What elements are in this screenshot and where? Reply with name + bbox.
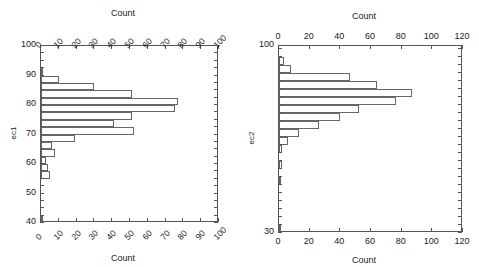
y-axis-tick: [214, 82, 218, 83]
y-axis-tick-label: 60: [6, 158, 36, 167]
panel-ec2: Count Count ec2 002020404060608080100100…: [240, 0, 479, 267]
x-axis-tick-label: 40: [105, 229, 118, 242]
y-axis-tick: [40, 156, 44, 157]
x-axis-tick: [93, 218, 94, 222]
y-axis-tick-label: 80: [6, 99, 36, 108]
x-axis-tick: [370, 45, 371, 49]
y-axis-tick: [40, 126, 44, 127]
y-axis-tick: [278, 104, 282, 105]
x-axis-tick-label: 10: [52, 229, 65, 242]
y-axis-tick: [278, 192, 282, 193]
y-axis-tick: [40, 111, 44, 112]
y-axis-tick: [278, 200, 282, 201]
y-axis-tick: [214, 163, 218, 164]
x-axis-tick-label: 70: [159, 229, 172, 242]
y-axis-tick: [214, 207, 218, 208]
y-axis-tick: [40, 207, 44, 208]
left-top-axis-title: Count: [111, 9, 135, 18]
y-axis-tick: [278, 160, 282, 161]
x-axis-tick-label: 50: [123, 229, 136, 242]
y-axis-tick: [214, 193, 218, 194]
y-axis-tick: [40, 82, 44, 83]
y-axis-tick-label: 100: [244, 40, 274, 49]
x-axis-tick: [165, 218, 166, 222]
y-axis-tick-label: 70: [6, 129, 36, 138]
y-axis-tick: [214, 60, 218, 61]
y-axis-tick: [214, 200, 218, 201]
x-axis-tick: [462, 228, 463, 232]
y-axis-tick: [458, 224, 462, 225]
y-axis-tick: [458, 104, 462, 105]
y-axis-tick: [214, 67, 218, 68]
histogram-figure: Count Count ec1 001010202030304040505060…: [0, 0, 479, 267]
y-axis-tick-label: 90: [6, 70, 36, 79]
y-axis-tick: [458, 136, 462, 137]
y-axis-tick: [40, 163, 44, 164]
right-bars-group: [279, 46, 461, 231]
right-top-axis-title: Count: [352, 12, 376, 21]
histogram-bar: [279, 105, 359, 113]
y-axis-tick: [458, 56, 462, 57]
histogram-bar: [41, 127, 134, 134]
y-axis-tick: [278, 136, 282, 137]
y-axis-tick: [40, 104, 44, 105]
y-axis-tick: [278, 96, 282, 97]
y-axis-tick: [40, 119, 44, 120]
x-axis-tick-label: 100: [212, 225, 228, 241]
x-axis-tick: [76, 218, 77, 222]
y-axis-tick: [278, 224, 282, 225]
y-axis-tick: [214, 178, 218, 179]
y-axis-tick: [40, 75, 44, 76]
y-axis-tick: [278, 56, 282, 57]
y-axis-tick: [214, 156, 218, 157]
histogram-bar: [41, 112, 132, 119]
y-axis-tick-label: 50: [6, 188, 36, 197]
y-axis-tick: [278, 232, 282, 233]
y-axis-tick: [458, 64, 462, 65]
left-bars-group: [41, 46, 217, 221]
left-plot-area: [40, 45, 218, 222]
x-axis-tick: [339, 228, 340, 232]
y-axis-tick: [278, 88, 282, 89]
y-axis-tick: [278, 112, 282, 113]
x-axis-tick: [200, 218, 201, 222]
y-axis-tick: [278, 72, 282, 73]
y-axis-tick: [278, 128, 282, 129]
y-axis-tick: [278, 120, 282, 121]
histogram-bar: [41, 90, 132, 97]
y-axis-tick: [214, 222, 218, 223]
x-axis-tick-label: 120: [442, 237, 479, 246]
x-axis-tick-label: 0: [34, 232, 43, 241]
x-axis-tick-label: 90: [194, 229, 207, 242]
y-axis-tick: [214, 170, 218, 171]
left-bottom-axis-title: Count: [111, 254, 135, 263]
y-axis-tick: [458, 160, 462, 161]
histogram-bar: [41, 120, 114, 127]
y-axis-tick: [278, 168, 282, 169]
x-axis-tick: [218, 218, 219, 222]
histogram-bar: [41, 98, 178, 105]
y-axis-tick: [214, 148, 218, 149]
x-axis-tick-label: 60: [141, 229, 154, 242]
y-axis-tick: [40, 134, 44, 135]
y-axis-tick: [40, 200, 44, 201]
histogram-bar: [279, 121, 319, 129]
x-axis-tick: [58, 218, 59, 222]
y-axis-tick: [278, 80, 282, 81]
right-plot-area: [278, 45, 462, 232]
right-y-axis-label: ec2: [248, 118, 256, 158]
y-axis-tick: [278, 216, 282, 217]
y-axis-tick: [214, 104, 218, 105]
y-axis-tick: [458, 112, 462, 113]
y-axis-tick: [40, 97, 44, 98]
y-axis-tick-label: 100: [6, 40, 36, 49]
y-axis-tick: [458, 72, 462, 73]
y-axis-tick: [40, 215, 44, 216]
y-axis-tick: [278, 48, 282, 49]
right-bottom-axis-title: Count: [352, 256, 376, 265]
histogram-bar: [41, 83, 94, 90]
y-axis-tick: [40, 222, 44, 223]
y-axis-tick: [40, 45, 44, 46]
x-axis-tick-label: 120: [442, 32, 479, 41]
y-axis-tick: [458, 144, 462, 145]
